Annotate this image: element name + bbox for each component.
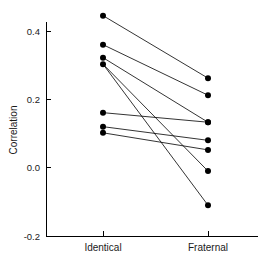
y-axis-tick-labels: -0.20.00.20.4 xyxy=(24,26,40,242)
y-axis-title-text: Correlation xyxy=(8,106,19,155)
series-line-pair-3 xyxy=(103,58,208,123)
data-point-fraternal-4 xyxy=(205,137,211,143)
data-point-fraternal-6 xyxy=(205,168,211,174)
series-lines xyxy=(103,16,208,206)
y-tick-label-2: 0.2 xyxy=(27,94,40,105)
series-line-pair-5 xyxy=(103,113,208,123)
x-category-label-0: Identical xyxy=(84,242,121,253)
y-tick-label-1: 0.0 xyxy=(27,162,40,173)
y-axis-title: Correlation xyxy=(8,106,19,155)
data-points xyxy=(100,13,211,209)
series-line-pair-7 xyxy=(103,133,208,150)
data-point-identical-1 xyxy=(100,42,106,48)
data-point-identical-6 xyxy=(100,130,106,136)
data-point-fraternal-1 xyxy=(205,92,211,98)
data-point-fraternal-7 xyxy=(205,202,211,208)
series-line-pair-1 xyxy=(103,16,208,79)
data-point-identical-3 xyxy=(100,61,106,67)
y-tick-label-3: 0.4 xyxy=(27,26,40,37)
series-line-pair-6 xyxy=(103,127,208,141)
data-point-identical-0 xyxy=(100,13,106,19)
x-axis-category-labels: IdenticalFraternal xyxy=(84,242,228,253)
axes xyxy=(46,22,258,236)
data-point-identical-4 xyxy=(100,110,106,116)
data-point-fraternal-0 xyxy=(205,75,211,81)
x-category-label-1: Fraternal xyxy=(188,242,228,253)
y-axis-ticks xyxy=(46,31,51,236)
correlation-twin-study-chart: -0.20.00.20.4 IdenticalFraternal Correla… xyxy=(0,0,266,262)
series-line-pair-2 xyxy=(103,45,208,96)
series-line-pair-8 xyxy=(103,64,208,205)
data-point-fraternal-3 xyxy=(205,119,211,125)
data-point-fraternal-5 xyxy=(205,147,211,153)
y-tick-label-0: -0.2 xyxy=(24,231,40,242)
x-axis-ticks xyxy=(103,231,208,236)
data-point-identical-2 xyxy=(100,55,106,61)
data-point-identical-5 xyxy=(100,124,106,130)
plot-area: -0.20.00.20.4 IdenticalFraternal Correla… xyxy=(0,0,266,262)
